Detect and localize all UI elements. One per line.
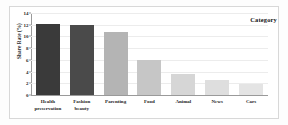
bar-chart-figure: Share Rate (%) 02468101214 Healthpreserv… (0, 0, 288, 125)
bar-group: Cars (234, 13, 268, 95)
y-tick-label: 0 (26, 93, 29, 98)
x-tick-label-line: Cars (231, 99, 271, 106)
bar[interactable] (171, 74, 195, 95)
y-tick-label: 6 (26, 57, 29, 62)
y-tick-label: 2 (26, 81, 29, 86)
bar[interactable] (70, 25, 94, 95)
bar-group: Animal (166, 13, 200, 95)
bar[interactable] (137, 60, 161, 95)
y-axis-title: Share Rate (%) (16, 11, 22, 71)
bar[interactable] (239, 84, 263, 95)
y-tick-label: 4 (26, 69, 29, 74)
axis-baseline (31, 95, 268, 96)
y-tick-label: 10 (24, 34, 29, 39)
bar-series: HealthpreservationFashionbeautyParenting… (31, 13, 268, 95)
bar-group: Food (133, 13, 167, 95)
bar[interactable] (104, 32, 128, 95)
y-tick-label: 14 (24, 11, 29, 16)
bar-group: Parenting (99, 13, 133, 95)
legend-label: Category (250, 16, 277, 23)
y-tick-label: 8 (26, 46, 29, 51)
plot-area: 02468101214 HealthpreservationFashionbea… (31, 13, 268, 95)
x-tick-label: Cars (231, 99, 271, 106)
bar-group: Healthpreservation (31, 13, 65, 95)
x-tick-label-line: beauty (62, 106, 102, 113)
bar[interactable] (36, 24, 60, 95)
bar-group: News (200, 13, 234, 95)
bar[interactable] (205, 80, 229, 95)
bar-group: Fashionbeauty (65, 13, 99, 95)
y-tick-label: 12 (24, 22, 29, 27)
